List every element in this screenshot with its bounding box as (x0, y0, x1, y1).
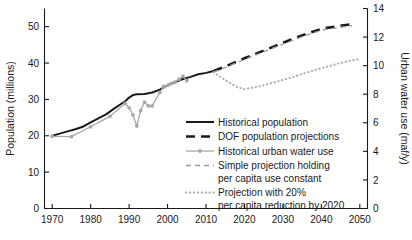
legend-item-1[interactable]: DOF population projections (186, 131, 339, 142)
x-tick-label: 2000 (156, 214, 179, 225)
x-tick-label: 1990 (118, 214, 141, 225)
y-tick-label-right: 14 (373, 3, 385, 14)
legend-item-0[interactable]: Historical population (186, 117, 308, 128)
chart-figure: 01020304050Population (millions)02468101… (0, 0, 412, 240)
legend-label-0: Historical population (218, 117, 308, 128)
y-tick-label-right: 0 (373, 203, 379, 214)
series-marker-2 (131, 113, 135, 117)
series-marker-2 (70, 135, 74, 139)
legend-label-2: Historical urban water use (218, 146, 334, 157)
legend-item-4[interactable]: Projection with 20%per capita reduction … (186, 187, 345, 211)
series-line-4 (214, 59, 360, 89)
series-marker-2 (127, 106, 131, 110)
chart-canvas: 01020304050Population (millions)02468101… (0, 0, 412, 240)
x-tick-label: 2020 (233, 214, 256, 225)
y-tick-label-left: 0 (33, 203, 39, 214)
series-marker-2 (166, 83, 170, 87)
series-marker-2 (169, 82, 173, 86)
x-tick-label: 2050 (349, 214, 372, 225)
legend-label-3-line2: per capita use constant (218, 173, 322, 184)
series-marker-2 (89, 125, 93, 129)
series-marker-2 (150, 104, 154, 108)
legend: Historical populationDOF population proj… (186, 117, 345, 211)
y-tick-label-right: 12 (373, 32, 385, 43)
series-marker-2 (123, 102, 127, 106)
x-tick-label: 1980 (80, 214, 103, 225)
y-axis-right: 02468101214 (363, 3, 385, 214)
series-marker-2 (177, 77, 181, 81)
x-tick-label: 2040 (310, 214, 333, 225)
y-tick-label-left: 20 (28, 130, 40, 141)
y-tick-label-left: 30 (28, 94, 40, 105)
y-tick-label-right: 4 (373, 146, 379, 157)
y-axis-title-right: Urban water use (maf/y) (399, 52, 411, 165)
series-marker-2 (185, 79, 189, 83)
y-tick-label-left: 50 (28, 21, 40, 32)
legend-label-4: Projection with 20% (218, 187, 306, 198)
series-marker-2 (173, 80, 177, 84)
x-tick-label: 2030 (272, 214, 295, 225)
y-tick-label-right: 6 (373, 117, 379, 128)
series-marker-2 (181, 74, 185, 78)
y-tick-label-right: 8 (373, 89, 379, 100)
series-marker-2 (139, 109, 143, 113)
legend-label-1: DOF population projections (218, 131, 339, 142)
y-tick-label-left: 40 (28, 58, 40, 69)
series-marker-2 (143, 100, 147, 104)
legend-item-3[interactable]: Simple projection holdingper capita use … (186, 160, 330, 184)
legend-label-3: Simple projection holding (218, 160, 330, 171)
series-marker-2 (50, 134, 54, 138)
series-marker-2 (135, 124, 139, 128)
legend-label-4-line2: per capita reduction by 2020 (218, 200, 345, 211)
y-axis-title-left: Population (millions) (4, 61, 16, 156)
series-marker-2 (162, 84, 166, 88)
y-tick-label-right: 10 (373, 60, 385, 71)
y-axis-left: 01020304050 (28, 21, 49, 214)
series-marker-2 (158, 91, 162, 95)
legend-item-2[interactable]: Historical urban water use (186, 146, 334, 157)
y-tick-label-right: 2 (373, 175, 379, 186)
series-line-0 (52, 71, 214, 136)
series-marker-2 (108, 114, 112, 118)
legend-marker-2 (198, 149, 202, 153)
x-tick-label: 1970 (41, 214, 64, 225)
series-marker-2 (146, 104, 150, 108)
x-tick-label: 2010 (195, 214, 218, 225)
y-tick-label-left: 10 (28, 167, 40, 178)
